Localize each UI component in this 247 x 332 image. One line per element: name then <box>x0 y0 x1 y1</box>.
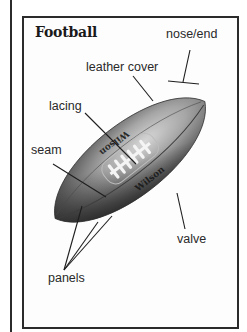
leader-nose-end <box>183 50 190 82</box>
football-illustration: Wilson Wilson <box>0 0 247 332</box>
leader-leather-cover <box>133 76 153 101</box>
leader-panels-2 <box>64 222 98 270</box>
leader-valve <box>177 193 185 229</box>
football-icon: Wilson Wilson <box>33 73 227 247</box>
